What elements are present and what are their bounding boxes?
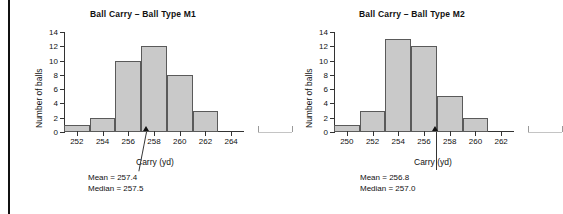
y-tick-label-m2: 10 xyxy=(319,56,328,65)
histogram-bar xyxy=(115,61,141,132)
y-tick-m2 xyxy=(330,32,335,33)
y-tick-m1 xyxy=(60,61,65,62)
y-tick-label-m2: 2 xyxy=(324,113,328,122)
y-tick-label-m1: 4 xyxy=(54,99,58,108)
x-tick-label-m2: 258 xyxy=(443,137,456,146)
x-tick-label-m1: 260 xyxy=(173,137,186,146)
x-axis-title-m2: Carry (yd) xyxy=(414,157,452,167)
mean-label-m1: Mean = 257.4 xyxy=(88,172,143,183)
y-tick-m1 xyxy=(60,118,65,119)
axis-remnant-rule-m1 xyxy=(258,132,292,133)
y-tick-label-m2: 14 xyxy=(319,28,328,37)
histogram-bar xyxy=(167,75,193,132)
y-tick-m1 xyxy=(60,46,65,47)
y-tick-label-m2: 8 xyxy=(324,70,328,79)
histogram-bar xyxy=(193,111,219,132)
x-tick-label-m2: 250 xyxy=(340,137,353,146)
x-tick-label-m1: 256 xyxy=(122,137,135,146)
x-tick-m2 xyxy=(347,131,348,136)
y-tick-m2 xyxy=(330,132,335,133)
stats-annotation-m1: Mean = 257.4 Median = 257.5 xyxy=(88,172,143,194)
x-tick-label-m1: 258 xyxy=(147,137,160,146)
x-tick-m2 xyxy=(424,131,425,136)
mean-label-m2: Mean = 256.8 xyxy=(360,172,415,183)
y-tick-label-m2: 0 xyxy=(324,128,328,137)
y-axis-title-m1: Number of balls xyxy=(34,68,44,128)
x-tick-label-m1: 264 xyxy=(224,137,237,146)
y-tick-m2 xyxy=(330,61,335,62)
x-tick-label-m2: 262 xyxy=(494,137,507,146)
page-left-rule xyxy=(8,0,10,214)
histogram-bar xyxy=(411,46,437,132)
x-tick-m1 xyxy=(154,131,155,136)
x-tick-label-m2: 252 xyxy=(366,137,379,146)
chart-title-m2: Ball Carry – Ball Type M2 xyxy=(288,9,536,19)
x-tick-m2 xyxy=(450,131,451,136)
mean-marker-arrow-m1 xyxy=(143,126,149,131)
x-tick-m1 xyxy=(205,131,206,136)
axis-remnant-rule-m2 xyxy=(528,132,562,133)
y-tick-m1 xyxy=(60,89,65,90)
x-tick-label-m1: 262 xyxy=(199,137,212,146)
x-tick-label-m2: 260 xyxy=(469,137,482,146)
stats-annotation-m2: Mean = 256.8 Median = 257.0 xyxy=(360,172,415,194)
mean-marker-arrow-m2 xyxy=(432,126,438,131)
histogram-bar xyxy=(90,118,116,132)
x-tick-m1 xyxy=(231,131,232,136)
y-tick-label-m1: 10 xyxy=(49,56,58,65)
axis-remnant-tick-m1 xyxy=(258,126,259,132)
mean-leader-line-m2 xyxy=(436,132,437,170)
x-tick-m1 xyxy=(77,131,78,136)
y-tick-label-m1: 8 xyxy=(54,70,58,79)
y-tick-label-m1: 12 xyxy=(49,42,58,51)
x-tick-label-m1: 252 xyxy=(70,137,83,146)
x-tick-label-m2: 254 xyxy=(392,137,405,146)
y-tick-m2 xyxy=(330,103,335,104)
x-tick-m1 xyxy=(128,131,129,136)
y-tick-m2 xyxy=(330,75,335,76)
chart-panel-m1: Ball Carry – Ball Type M1 Number of ball… xyxy=(18,0,268,214)
histogram-bar xyxy=(141,46,167,132)
x-tick-m2 xyxy=(398,131,399,136)
y-tick-label-m1: 2 xyxy=(54,113,58,122)
y-tick-m2 xyxy=(330,118,335,119)
x-tick-m2 xyxy=(373,131,374,136)
plot-area-m1: 02468101214252254256258260262264 xyxy=(64,32,244,132)
y-tick-label-m2: 4 xyxy=(324,99,328,108)
y-tick-m2 xyxy=(330,89,335,90)
axis-remnant-tick-m2 xyxy=(528,126,529,132)
x-tick-m1 xyxy=(103,131,104,136)
histogram-bar xyxy=(437,96,463,132)
chart-panel-m2: Ball Carry – Ball Type M2 Number of ball… xyxy=(288,0,536,214)
histogram-bar xyxy=(385,39,411,132)
y-tick-m1 xyxy=(60,75,65,76)
y-tick-label-m1: 6 xyxy=(54,85,58,94)
histogram-bar xyxy=(463,118,489,132)
y-tick-label-m2: 6 xyxy=(324,85,328,94)
y-tick-m1 xyxy=(60,32,65,33)
y-tick-m2 xyxy=(330,46,335,47)
x-tick-m2 xyxy=(475,131,476,136)
x-tick-label-m2: 256 xyxy=(417,137,430,146)
x-tick-label-m1: 254 xyxy=(96,137,109,146)
plot-area-m2: 02468101214250252254256258260262 xyxy=(334,32,514,132)
y-tick-label-m1: 14 xyxy=(49,28,58,37)
median-label-m2: Median = 257.0 xyxy=(360,183,415,194)
x-tick-m2 xyxy=(501,131,502,136)
median-label-m1: Median = 257.5 xyxy=(88,183,143,194)
y-tick-m1 xyxy=(60,103,65,104)
y-axis-title-m2: Number of balls xyxy=(304,68,314,128)
histogram-bar xyxy=(360,111,386,132)
x-tick-m1 xyxy=(180,131,181,136)
y-tick-m1 xyxy=(60,132,65,133)
chart-title-m1: Ball Carry – Ball Type M1 xyxy=(18,9,268,19)
y-tick-label-m1: 0 xyxy=(54,128,58,137)
y-tick-label-m2: 12 xyxy=(319,42,328,51)
